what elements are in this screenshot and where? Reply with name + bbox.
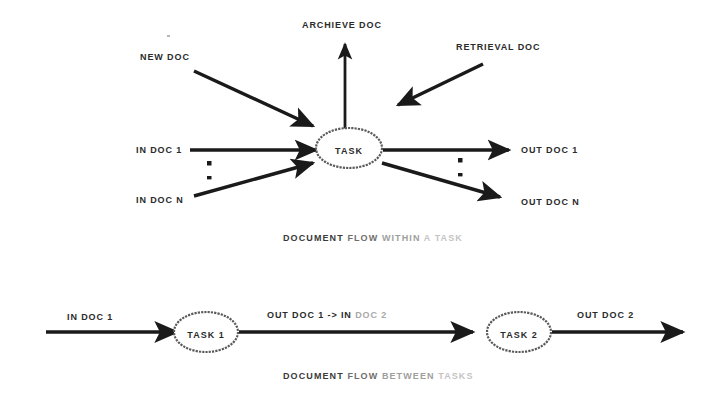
- label-out-doc-n: OUT DOC N: [521, 198, 580, 207]
- arrow-retrieval-doc: [398, 64, 483, 105]
- label-retrieval-doc: RETRIEVAL DOC: [456, 43, 540, 52]
- task-2-label: TASK 2: [500, 330, 537, 340]
- label-edge-in-doc-1: IN DOC 1: [67, 313, 113, 322]
- arrow-in-doc-n: [194, 163, 313, 196]
- label-new-doc: NEW DOC: [140, 53, 190, 62]
- task-1-label: TASK 1: [187, 330, 224, 340]
- label-edge-out-doc-1-in-doc-2: OUT DOC 1 -> IN DOC 2: [267, 311, 387, 320]
- arrow-out-doc-n: [382, 163, 500, 197]
- top-diagram-arrows: TASK: [190, 44, 509, 197]
- caption-document-flow-within-task: DOCUMENT FLOW WITHIN A TASK: [283, 234, 463, 243]
- scan-speck: [167, 35, 170, 37]
- ellipsis-left: [207, 161, 212, 179]
- label-in-doc-1: IN DOC 1: [136, 146, 182, 155]
- caption-document-flow-between-tasks: DOCUMENT FLOW BETWEEN TASKS: [283, 372, 474, 381]
- label-archieve-doc: ARCHIEVE DOC: [302, 21, 382, 30]
- arrow-new-doc: [194, 71, 313, 126]
- task-node-label: TASK: [335, 146, 363, 156]
- diagram-canvas: TASK TASK 1 TASK 2: [0, 0, 701, 412]
- label-out-doc-1: OUT DOC 1: [521, 146, 578, 155]
- label-edge-out-doc-2: OUT DOC 2: [577, 311, 634, 320]
- ellipsis-right: [458, 158, 463, 176]
- label-in-doc-n: IN DOC N: [136, 196, 184, 205]
